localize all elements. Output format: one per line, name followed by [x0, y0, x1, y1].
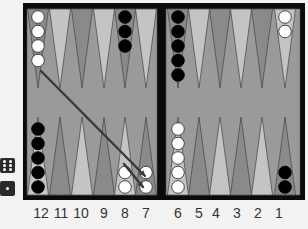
- point-label-9: 9: [94, 205, 114, 221]
- white-checker[interactable]: [119, 166, 132, 179]
- point-label-8: 8: [115, 205, 135, 221]
- pip-icon: [3, 160, 6, 163]
- white-checker[interactable]: [279, 25, 292, 38]
- white-checker[interactable]: [172, 152, 185, 165]
- point-label-10: 10: [71, 205, 91, 221]
- pip-icon: [9, 168, 12, 171]
- white-checker[interactable]: [32, 54, 45, 67]
- white-checker[interactable]: [32, 11, 45, 24]
- point-label-7: 7: [136, 205, 156, 221]
- white-checker[interactable]: [32, 25, 45, 38]
- pip-icon: [9, 164, 12, 167]
- black-checker[interactable]: [32, 181, 45, 194]
- white-checker[interactable]: [279, 11, 292, 24]
- black-checker[interactable]: [119, 40, 132, 53]
- pip-icon: [9, 160, 12, 163]
- black-checker[interactable]: [172, 40, 185, 53]
- black-checker[interactable]: [172, 11, 185, 24]
- black-checker[interactable]: [32, 123, 45, 136]
- die-six: [0, 158, 15, 173]
- point-label-11: 11: [51, 205, 71, 221]
- white-checker[interactable]: [119, 181, 132, 194]
- black-checker[interactable]: [32, 166, 45, 179]
- black-checker[interactable]: [119, 11, 132, 24]
- pip-icon: [3, 164, 6, 167]
- black-checker[interactable]: [32, 152, 45, 165]
- point-label-2: 2: [248, 205, 268, 221]
- point-label-1: 1: [269, 205, 289, 221]
- black-checker[interactable]: [119, 25, 132, 38]
- pip-icon: [6, 187, 9, 190]
- black-checker[interactable]: [279, 166, 292, 179]
- pip-icon: [3, 168, 6, 171]
- black-checker[interactable]: [172, 25, 185, 38]
- white-checker[interactable]: [172, 123, 185, 136]
- white-checker[interactable]: [172, 181, 185, 194]
- point-label-12: 12: [31, 205, 51, 221]
- black-checker[interactable]: [32, 137, 45, 150]
- backgammon-board: [0, 0, 308, 229]
- point-label-6: 6: [168, 205, 188, 221]
- point-label-3: 3: [227, 205, 247, 221]
- point-label-4: 4: [206, 205, 226, 221]
- white-checker[interactable]: [172, 137, 185, 150]
- black-checker[interactable]: [172, 54, 185, 67]
- white-checker[interactable]: [172, 166, 185, 179]
- die-one: [0, 181, 15, 196]
- black-checker[interactable]: [172, 69, 185, 82]
- white-checker[interactable]: [32, 40, 45, 53]
- black-checker[interactable]: [279, 181, 292, 194]
